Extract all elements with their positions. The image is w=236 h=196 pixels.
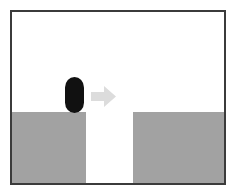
platform-left <box>12 112 86 183</box>
gap-region <box>86 112 133 183</box>
agent-capsule <box>65 77 84 113</box>
arrow-right-glyph <box>91 86 116 107</box>
platform-right <box>133 112 224 183</box>
scene-canvas <box>12 12 224 183</box>
scene-frame <box>10 10 226 185</box>
arrow-right-shape <box>91 86 116 107</box>
scene-figure: Capsule agent on left platform moving ri… <box>0 0 236 196</box>
arrow-right-icon <box>91 86 116 107</box>
